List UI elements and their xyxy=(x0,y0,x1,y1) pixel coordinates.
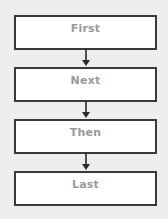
step-box-then: Then xyxy=(14,119,157,154)
step-box-last: Last xyxy=(14,171,157,206)
step-label: First xyxy=(16,22,155,35)
step-label: Next xyxy=(16,74,155,87)
arrow-down-icon xyxy=(82,49,90,67)
step-box-first: First xyxy=(14,15,157,50)
step-label: Then xyxy=(16,126,155,139)
step-label: Last xyxy=(16,178,155,191)
arrow-down-icon xyxy=(82,101,90,119)
arrow-down-icon xyxy=(82,153,90,171)
step-box-next: Next xyxy=(14,67,157,102)
